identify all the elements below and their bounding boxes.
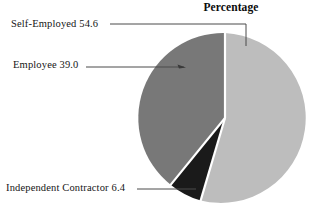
slice-label-independent-contractor: Independent Contractor 6.4 bbox=[6, 182, 125, 193]
chart-title: Percentage bbox=[186, 1, 276, 13]
slice-label-self-employed: Self-Employed 54.6 bbox=[11, 18, 98, 29]
slice-label-employee: Employee 39.0 bbox=[13, 59, 79, 70]
pie-chart-figure: Percentage Self-Employed 54.6 Employee 3… bbox=[0, 0, 325, 219]
